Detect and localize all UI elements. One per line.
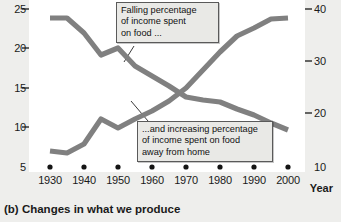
x-tick-1990: 1990 — [237, 174, 271, 186]
x-tick-1940: 1940 — [67, 174, 101, 186]
x-tick-1980: 1980 — [203, 174, 237, 186]
left-axis-ticks — [22, 9, 29, 127]
x-axis-title: Year — [310, 182, 333, 194]
annotation-callout-falling: Falling percentage of income spent on fo… — [116, 2, 219, 43]
y-left-tick-25: 25 — [0, 3, 26, 15]
x-tick-1960: 1960 — [135, 174, 169, 186]
y-left-tick-20: 20 — [0, 42, 26, 54]
annotation-rising-line-1: ...and increasing percentage — [142, 124, 268, 135]
annotation-falling-line-3: on food ... — [121, 28, 214, 39]
x-tick-1970: 1970 — [169, 174, 203, 186]
y-left-tick-5: 5 — [0, 161, 26, 173]
annotation-falling-line-1: Falling percentage — [121, 5, 214, 16]
annotation-callout-rising: ...and increasing percentage of income s… — [137, 121, 273, 162]
annotation-rising-line-2: of income spent on food — [142, 135, 268, 146]
y-right-tick-40: 40 — [314, 3, 341, 15]
figure-panel: 25 20 15 10 5 40 30 20 10 1930 1940 1950… — [0, 0, 341, 222]
y-right-tick-20: 20 — [314, 107, 341, 119]
figure-caption: (b) Changes in what we produce — [4, 203, 180, 215]
right-axis-ticks — [305, 9, 312, 113]
x-tick-1950: 1950 — [101, 174, 135, 186]
y-right-tick-10: 10 — [314, 161, 341, 173]
annotation-rising-line-3: away from home — [142, 147, 268, 158]
y-right-tick-30: 30 — [314, 55, 341, 67]
x-tick-1930: 1930 — [33, 174, 67, 186]
x-tick-2000: 2000 — [271, 174, 305, 186]
annotation-falling-line-2: of income spent — [121, 16, 214, 27]
y-left-tick-10: 10 — [0, 121, 26, 133]
y-left-tick-15: 15 — [0, 82, 26, 94]
